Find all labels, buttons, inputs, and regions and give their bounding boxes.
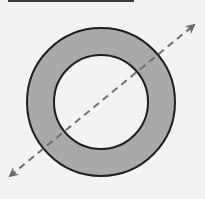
diagram-canvas [0, 0, 205, 199]
annulus-diagram [0, 0, 205, 199]
ring-inner-hole [54, 55, 148, 149]
